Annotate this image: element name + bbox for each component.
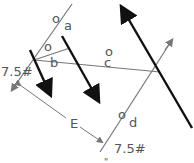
label-o-b: o [44,40,52,53]
heavy-arrow-1 [30,50,50,94]
dim-E-left [20,85,66,118]
label-a: a [64,19,72,32]
label-o-d: o [118,108,126,121]
label-bottom-partial: " [104,158,108,163]
dim-E-right [80,127,102,142]
label-b: b [50,56,58,69]
label-o-a: o [52,12,60,25]
heavy-arrow-2 [62,36,98,100]
diagram-canvas [0,0,194,163]
label-d: d [129,116,137,129]
arrow-d [165,40,172,50]
heavy-arrow-3 [122,8,192,128]
label-E: E [70,117,78,130]
label-force-left: 7.5# [1,65,33,78]
label-force-right: 7.5# [114,142,146,155]
label-c: c [104,56,111,69]
